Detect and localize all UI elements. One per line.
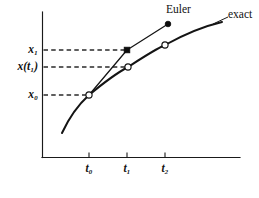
x-axis-label-t0-text: t₀ (85, 162, 92, 174)
x-axis-label-t1: t₁ (119, 163, 135, 175)
x-axis-label-t2-text: t₂ (161, 162, 168, 174)
exact-solution-curve (62, 22, 222, 133)
euler-method-figure: x₁ x(t₁) x₀ t₀ t₁ t₂ Euler exact (0, 0, 259, 198)
guide-lines-group (44, 50, 127, 95)
y-axis-label-x-t1: x(t₁) (17, 61, 38, 73)
x-axis-label-t0: t₀ (81, 163, 97, 175)
y-axis-label-x1-text: x₁ (28, 43, 38, 55)
y-axis-label-x0: x₀ (28, 89, 38, 101)
exact-t1-point-marker (125, 64, 131, 70)
euler-curve-label: Euler (166, 4, 191, 16)
x-axis-label-t1-text: t₁ (123, 162, 130, 174)
initial-point-marker (86, 92, 92, 98)
exact-curve-label-text: exact (228, 8, 252, 20)
exact-curve-label: exact (228, 9, 252, 21)
euler-x1-point-marker (124, 47, 130, 53)
exact-t2-point-marker (162, 42, 168, 48)
euler-curve-label-text: Euler (166, 3, 191, 15)
y-axis-label-x-t1-text: x(t₁) (17, 60, 38, 72)
euler-segment-1 (89, 50, 127, 95)
x-axis-label-t2: t₂ (157, 163, 173, 175)
x-axis-ticks (89, 153, 165, 158)
euler-endpoint-marker (165, 21, 171, 27)
y-axis-label-x0-text: x₀ (28, 88, 38, 100)
y-axis-label-x1: x₁ (28, 44, 38, 56)
axes-group (42, 12, 240, 158)
